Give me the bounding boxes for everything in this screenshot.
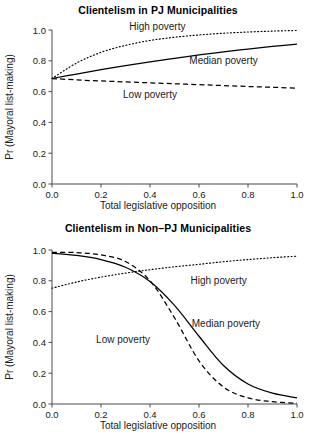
x-axis-title-non-pj: Total legislative opposition (0, 420, 316, 431)
y-axis-tick-label: 0.6 (33, 86, 46, 97)
figure-two-panel-line-charts: Clientelism in PJ Municipalities 0.00.20… (0, 0, 316, 439)
x-axis-tick-label: 0.2 (94, 409, 107, 420)
y-axis-tick-label: 0.6 (33, 306, 46, 317)
x-axis-title-pj: Total legislative opposition (0, 200, 316, 211)
y-axis-title: Pr (Mayoral list-making) (4, 274, 15, 380)
series-annotation-high-poverty: High poverty (129, 21, 185, 32)
x-axis-tick-label: 1.0 (290, 189, 303, 200)
x-axis-tick-label: 0.6 (192, 189, 205, 200)
x-axis-tick-label: 0.8 (241, 189, 254, 200)
y-axis-tick-label: 0.0 (33, 179, 46, 190)
series-line-low-poverty (52, 79, 297, 89)
series-annotation-median-poverty: Median poverty (189, 55, 257, 66)
y-axis-tick-label: 0.2 (33, 148, 46, 159)
y-axis-tick-label: 0.4 (33, 337, 46, 348)
x-axis-tick-label: 0.8 (241, 409, 254, 420)
series-annotation-low-poverty: Low poverty (123, 89, 177, 100)
y-axis-tick-label: 0.4 (33, 117, 46, 128)
x-axis-tick-label: 0.6 (192, 409, 205, 420)
y-axis-tick-label: 1.0 (33, 25, 46, 36)
x-axis-tick-label: 0.0 (45, 189, 58, 200)
series-line-high-poverty (52, 256, 297, 288)
series-annotation-high-poverty: High poverty (191, 275, 247, 286)
plot-area-non-pj: 0.00.20.40.60.81.00.00.20.40.60.81.0Pr (… (0, 218, 316, 439)
series-annotation-low-poverty: Low poverty (96, 334, 150, 345)
series-line-low-poverty (52, 252, 297, 403)
y-axis-tick-label: 0.8 (33, 55, 46, 66)
x-axis-tick-label: 0.4 (143, 189, 156, 200)
x-axis-tick-label: 0.0 (45, 409, 58, 420)
x-axis-tick-label: 1.0 (290, 409, 303, 420)
chart-panel-pj: Clientelism in PJ Municipalities 0.00.20… (0, 0, 316, 218)
series-line-median-poverty (52, 253, 297, 398)
x-axis-tick-label: 0.2 (94, 189, 107, 200)
y-axis-tick-label: 1.0 (33, 245, 46, 256)
series-annotation-median-poverty: Median poverty (192, 318, 260, 329)
y-axis-tick-label: 0.0 (33, 399, 46, 410)
y-axis-tick-label: 0.8 (33, 275, 46, 286)
chart-panel-non-pj: Clientelism in Non–PJ Municipalities 0.0… (0, 218, 316, 439)
series-line-median-poverty (52, 44, 297, 79)
plot-area-pj: 0.00.20.40.60.81.00.00.20.40.60.81.0Pr (… (0, 0, 316, 218)
y-axis-title: Pr (Mayoral list-making) (4, 54, 15, 160)
x-axis-tick-label: 0.4 (143, 409, 156, 420)
y-axis-tick-label: 0.2 (33, 368, 46, 379)
